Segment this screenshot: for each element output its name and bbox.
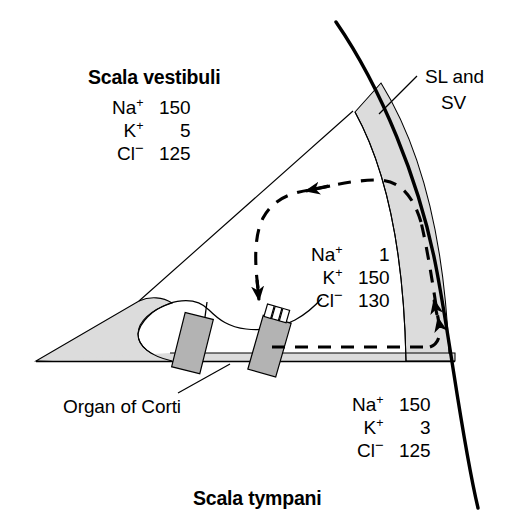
inner-hair-cell	[172, 312, 214, 373]
ion-value-na: 150	[393, 393, 431, 416]
sl-sv-label-line1: SL and	[425, 67, 484, 86]
ion-label-na: Na+	[311, 243, 352, 266]
organ-of-corti-label: Organ of Corti	[63, 397, 181, 416]
scala-tympani-ion-table: Na+ 150 K+ 3 Cl− 125	[352, 393, 431, 463]
sl-sv-label-line2: SV	[441, 93, 466, 112]
scala-vestibuli-title: Scala vestibuli	[88, 68, 220, 88]
inner-hair-cell-cilium	[205, 302, 207, 317]
ion-label-cl: Cl−	[352, 439, 393, 462]
scala-tympani-title: Scala tympani	[193, 489, 322, 509]
ion-label-k: K+	[352, 416, 393, 439]
ion-label-cl: Cl−	[311, 289, 352, 312]
ion-value-cl: 125	[153, 142, 191, 165]
scala-media-ion-table: Na+ 1 K+ 150 Cl− 130	[311, 243, 390, 313]
ion-value-na: 1	[352, 243, 390, 266]
ion-value-na: 150	[153, 96, 191, 119]
scala-vestibuli-ion-table: Na+ 150 K+ 5 Cl− 125	[112, 96, 191, 166]
cochlea-diagram-figure: Scala vestibuli Na+ 150 K+ 5 Cl− 125 SL …	[0, 0, 509, 528]
recycling-arrow-left	[256, 190, 310, 288]
ion-value-k: 150	[352, 266, 390, 289]
ion-label-k: K+	[311, 266, 352, 289]
spiral-limbus-shape	[36, 298, 172, 361]
ion-label-na: Na+	[352, 393, 393, 416]
ion-label-cl: Cl−	[112, 142, 153, 165]
inner-hair-cell-group	[172, 302, 214, 374]
ion-value-k: 3	[393, 416, 431, 439]
ion-value-cl: 125	[393, 439, 431, 462]
ion-label-k: K+	[112, 119, 153, 142]
ion-value-cl: 130	[352, 289, 390, 312]
stria-vascularis-band	[355, 83, 455, 361]
ion-label-na: Na+	[112, 96, 153, 119]
ion-value-k: 5	[153, 119, 191, 142]
outer-hair-cell-group	[248, 304, 291, 377]
recycling-arrow-left-head	[257, 280, 259, 300]
